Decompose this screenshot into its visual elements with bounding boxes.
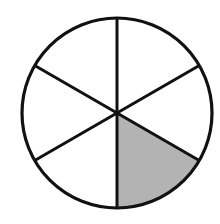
- divider-line: [35, 113, 117, 161]
- shaded-sector: [117, 113, 199, 208]
- divider-line: [35, 66, 117, 114]
- divider-line: [117, 66, 199, 114]
- fraction-circle-diagram: [0, 0, 220, 224]
